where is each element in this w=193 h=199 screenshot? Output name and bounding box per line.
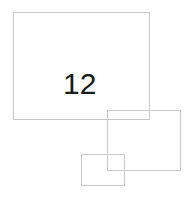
small-rectangle: [81, 154, 125, 186]
large-rectangle: [13, 12, 150, 120]
rectangle-number-label: 12: [63, 69, 96, 99]
